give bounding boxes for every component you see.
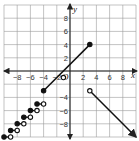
step-open-point xyxy=(35,108,39,112)
step-open-point xyxy=(15,128,19,132)
y-tick-label: 4 xyxy=(64,41,68,50)
ray-line xyxy=(90,91,136,137)
step-open-point xyxy=(41,102,45,106)
step-closed-point xyxy=(22,115,26,119)
step-closed-point xyxy=(35,102,39,106)
step-open-point xyxy=(22,122,26,126)
step-closed-point xyxy=(28,108,32,112)
y-tick-label: 2 xyxy=(64,54,68,63)
step-open-point xyxy=(28,115,32,119)
ray-start-point xyxy=(88,89,92,93)
x-tick-label: 8 xyxy=(121,73,125,82)
coordinate-plane: −8−6−4−224688642−4−6−8O x y xyxy=(0,0,139,141)
x-tick-label: 6 xyxy=(108,73,112,82)
y-tick-label: 8 xyxy=(64,14,68,23)
step-closed-point xyxy=(2,135,6,139)
step-closed-point xyxy=(15,122,19,126)
x-tick-label: −6 xyxy=(26,73,35,82)
isolated-open-point xyxy=(61,75,65,79)
x-tick-label: −8 xyxy=(13,73,22,82)
x-tick-label: 2 xyxy=(81,73,85,82)
graph-marks xyxy=(2,42,136,139)
y-tick-label: 6 xyxy=(64,27,68,36)
segment-start-point xyxy=(41,89,45,93)
segment-line xyxy=(44,45,90,91)
y-tick-label: −4 xyxy=(59,93,68,102)
x-axis-label: x xyxy=(130,70,135,80)
step-open-point xyxy=(8,135,12,139)
y-tick-label: −8 xyxy=(59,120,68,129)
y-axis-label: y xyxy=(72,4,77,14)
y-tick-label: −6 xyxy=(59,107,68,116)
step-closed-point xyxy=(8,128,12,132)
x-tick-label: −4 xyxy=(39,73,48,82)
x-tick-label: 4 xyxy=(94,73,98,82)
segment-end-point xyxy=(88,42,92,46)
